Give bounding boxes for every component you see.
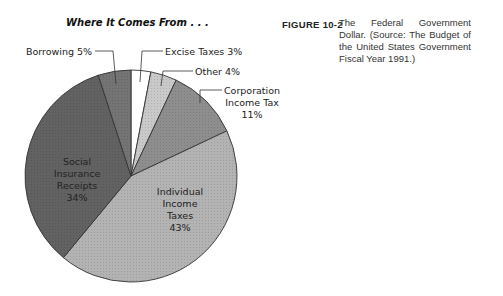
slice-label-corporation-income-tax-line-2: Income Tax [225,97,279,108]
slice-label-social-insurance-receipts-line-1: Social [63,156,91,167]
slice-label-individual-income-taxes-line-4: 43% [169,222,190,233]
slice-label-individual-income-taxes-line-3: Taxes [166,210,193,221]
pie-chart: Excise Taxes 3%Other 4%CorporationIncome… [0,0,503,296]
slice-label-social-insurance-receipts-line-3: Receipts [57,180,97,191]
slice-label-excise-taxes: Excise Taxes 3% [165,46,242,57]
slice-label-other: Other 4% [195,66,240,77]
slice-label-borrowing: Borrowing 5% [26,46,92,57]
slice-label-corporation-income-tax-line-1: Corporation [224,85,280,96]
slice-label-social-insurance-receipts-line-2: Insurance [54,168,101,179]
slice-label-corporation-income-tax-line-3: 11% [241,109,262,120]
slice-label-social-insurance-receipts-line-4: 34% [66,192,87,203]
slice-label-individual-income-taxes-line-2: Income [163,198,198,209]
slice-label-individual-income-taxes-line-1: Individual [157,186,203,197]
